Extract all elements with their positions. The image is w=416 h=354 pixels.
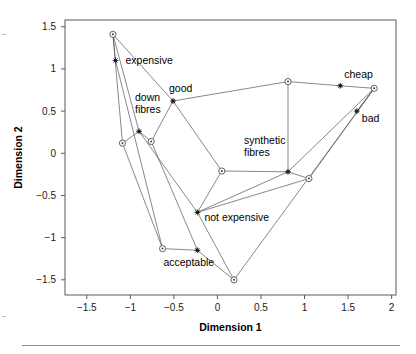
connection-line [309, 88, 374, 178]
y-axis-title: Dimension 2 [12, 126, 24, 189]
point-label: acceptable [163, 256, 214, 268]
point-label: syntheticfibres [244, 134, 285, 158]
point-label: expensive [126, 54, 173, 66]
x-axis-title: Dimension 1 [199, 321, 262, 333]
y-tick-label: 1 [50, 63, 56, 74]
x-tick-label: 0 [215, 302, 221, 313]
point-label: good [169, 82, 193, 94]
x-tick-label: 1.5 [341, 302, 355, 313]
y-tick-label: 0.5 [42, 106, 56, 117]
point-label: bad [362, 112, 380, 124]
point-label: cheap [344, 68, 373, 80]
connection-line [163, 249, 198, 251]
attribute-point-marker [194, 247, 200, 253]
attribute-point-marker [113, 57, 119, 63]
object-point-marker [285, 78, 291, 84]
x-tick-label: 0.5 [254, 302, 268, 313]
figure-container: −1.5−1−0.500.511.52−1.5−1−0.500.511.5 ex… [0, 0, 416, 354]
object-point-marker [119, 140, 125, 146]
connection-line [139, 131, 197, 212]
y-tick-label: −1.5 [36, 274, 56, 285]
attribute-point-marker [285, 169, 291, 175]
object-point-marker [306, 175, 312, 181]
connection-line [357, 88, 374, 111]
attribute-point-marker [194, 209, 200, 215]
connection-line [151, 141, 197, 250]
y-tick-label: 1.5 [42, 21, 56, 32]
object-point-marker [110, 31, 116, 37]
connection-line [288, 82, 340, 86]
object-point-marker [231, 277, 237, 283]
object-point-marker [219, 168, 225, 174]
connection-line [122, 143, 162, 248]
footer-rule [22, 345, 400, 346]
x-tick-label: −1 [125, 302, 137, 313]
point-label: not expensive [204, 211, 269, 223]
attribute-point-marker [337, 83, 343, 89]
object-point-marker [159, 246, 165, 252]
x-tick-label: 2 [389, 302, 395, 313]
scatter-plot: −1.5−1−0.500.511.52−1.5−1−0.500.511.5 ex… [0, 0, 416, 354]
x-tick-label: −0.5 [164, 302, 184, 313]
attribute-point-marker [136, 128, 142, 134]
point-label: downfibres [135, 91, 161, 115]
x-tick-label: −1.5 [77, 302, 97, 313]
margin-mark-bottom [2, 316, 6, 317]
axis-ticks: −1.5−1−0.500.511.52−1.5−1−0.500.511.5 [36, 21, 395, 313]
connection-line [173, 101, 222, 171]
connection-line [340, 86, 374, 89]
attribute-point-marker [354, 108, 360, 114]
connection-line [197, 172, 288, 212]
margin-mark-top [2, 34, 6, 35]
y-tick-label: −0.5 [36, 190, 56, 201]
object-point-marker [371, 85, 377, 91]
y-tick-label: −1 [45, 232, 57, 243]
x-tick-label: 1 [302, 302, 308, 313]
y-tick-label: 0 [50, 148, 56, 159]
connection-line [222, 171, 288, 172]
object-point-marker [148, 138, 154, 144]
connection-line [288, 88, 374, 172]
attribute-point-marker [170, 98, 176, 104]
